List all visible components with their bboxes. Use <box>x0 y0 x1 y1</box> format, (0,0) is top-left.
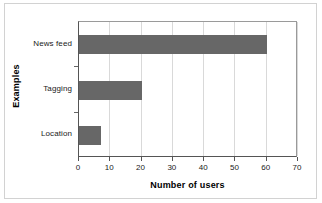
x-axis-tick <box>78 157 79 161</box>
plot-area <box>78 21 297 157</box>
y-axis-tick-label: News feed <box>2 39 72 49</box>
bar-tagging[interactable] <box>79 81 142 100</box>
x-axis-tick <box>109 157 110 161</box>
bar-news-feed[interactable] <box>79 35 267 54</box>
x-axis-title: Number of users <box>78 180 297 190</box>
y-axis-tick <box>74 66 78 67</box>
y-axis-tick-label: Tagging <box>2 84 72 94</box>
x-axis-tick <box>141 157 142 161</box>
x-axis-tick-label: 60 <box>251 163 281 173</box>
x-axis-tick-label: 50 <box>219 163 249 173</box>
x-axis-tick <box>297 157 298 161</box>
y-axis-tick <box>74 112 78 113</box>
x-axis-tick <box>266 157 267 161</box>
x-axis-tick-label: 30 <box>157 163 187 173</box>
bar-row <box>79 126 298 145</box>
y-axis-tick-label: Location <box>2 129 72 139</box>
bar-location[interactable] <box>79 126 101 145</box>
x-axis-tick <box>234 157 235 161</box>
bar-row <box>79 35 298 54</box>
x-axis-tick-label: 40 <box>188 163 218 173</box>
x-axis-tick <box>172 157 173 161</box>
bar-chart-figure: Number of users Examples News feedTaggin… <box>0 0 322 203</box>
bar-row <box>79 81 298 100</box>
x-axis-tick-label: 10 <box>94 163 124 173</box>
x-axis-tick-label: 0 <box>63 163 93 173</box>
x-axis-tick-label: 20 <box>126 163 156 173</box>
x-axis-tick <box>203 157 204 161</box>
x-axis-tick-label: 70 <box>282 163 312 173</box>
